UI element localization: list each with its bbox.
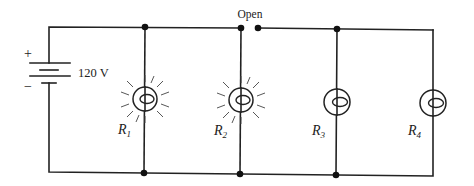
resistor-label-r4: R4 [407, 123, 422, 140]
junction-node [334, 26, 341, 33]
battery: + − 120 V [24, 46, 109, 94]
resistor-label-r3: R3 [311, 123, 326, 140]
positive-terminal-label: + [24, 46, 32, 61]
bulb-r1: R1 [117, 75, 169, 139]
bulb-r4: R4 [407, 90, 446, 140]
voltage-label: 120 V [78, 66, 109, 80]
junction-node [141, 170, 148, 177]
switch-open-label: Open [238, 8, 263, 21]
junction-node [333, 172, 340, 179]
resistor-label-r2: R2 [213, 123, 228, 140]
resistor-label-r1: R1 [117, 122, 131, 139]
switch-contact-right [255, 25, 262, 32]
negative-terminal-label: − [24, 79, 32, 94]
junction-node [142, 24, 149, 31]
bulb-r3: R3 [311, 89, 350, 140]
bulb-r2: R2 [213, 76, 265, 140]
circuit-diagram: + − 120 V Open R1 [0, 0, 474, 186]
junction-node [237, 171, 244, 178]
switch-contact-left [238, 25, 245, 32]
